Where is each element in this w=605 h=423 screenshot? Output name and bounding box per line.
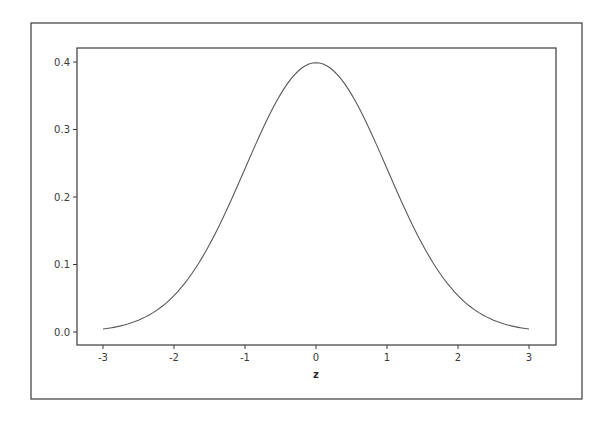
x-tick-label: 1 <box>384 352 390 363</box>
x-tick-label: -1 <box>240 352 250 363</box>
x-tick-label: -2 <box>169 352 179 363</box>
x-tick-label: 3 <box>526 352 532 363</box>
y-axis: 0.00.10.20.30.4 <box>54 57 77 338</box>
x-tick-label: -3 <box>98 352 108 363</box>
y-tick-label: 0.2 <box>54 192 70 203</box>
plot-area <box>77 48 556 345</box>
normal-distribution-chart: 0.00.10.20.30.4 -3-2-10123 z <box>0 0 605 423</box>
y-tick-label: 0.0 <box>54 327 70 338</box>
y-tick-label: 0.3 <box>54 124 70 135</box>
x-tick-label: 0 <box>313 352 319 363</box>
x-tick-label: 2 <box>455 352 461 363</box>
y-tick-label: 0.4 <box>54 57 70 68</box>
y-tick-label: 0.1 <box>54 259 70 270</box>
x-axis: -3-2-10123 <box>98 345 532 363</box>
x-axis-title: z <box>313 369 319 380</box>
